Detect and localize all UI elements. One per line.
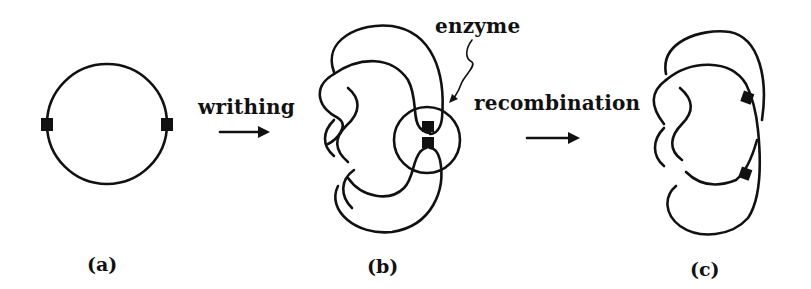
writhing-arrow [220,126,270,138]
writhing-label: writhing [198,95,295,119]
panel-c-label: (c) [690,258,720,280]
enzyme-label: enzyme [435,14,520,38]
site-b-bottom [422,137,434,148]
recombination-site-left [41,118,53,131]
panel-c-knotted-dna [654,31,764,234]
panel-b-writhed-dna [320,25,460,232]
enzyme-pointer-head [449,94,458,103]
diagram-canvas [0,0,811,289]
site-c-bottom [738,167,752,181]
recombination-label: recombination [474,91,640,115]
panel-a-label: (a) [87,253,117,275]
panel-b-label: (b) [367,255,398,277]
panel-a-circle [41,64,173,184]
recombination-site-right [161,118,173,131]
recombination-arrow [527,132,580,144]
enzyme-pointer [454,40,473,98]
site-b-top [422,121,434,132]
